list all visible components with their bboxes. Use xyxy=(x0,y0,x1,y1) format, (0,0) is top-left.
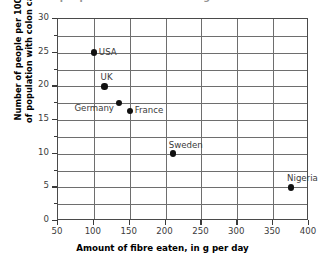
x-axis-tick xyxy=(236,220,237,225)
x-axis-tick-label: 150 xyxy=(109,226,149,236)
x-axis-tick-label: 250 xyxy=(180,226,220,236)
x-axis-tick xyxy=(272,220,273,225)
y-axis-tick-major xyxy=(52,52,57,53)
x-axis-tick xyxy=(308,220,309,225)
y-axis-title-line-1: Number of people per 100 000 xyxy=(13,0,25,120)
y-axis-tick-label: 10 xyxy=(27,147,49,157)
x-axis-tick xyxy=(57,220,58,225)
y-axis-tick-major xyxy=(52,119,57,120)
data-point-label: France xyxy=(135,105,164,115)
chart-title: Number of people with colon cancer again… xyxy=(0,0,325,3)
y-axis-tick-label: 5 xyxy=(27,180,49,190)
data-point-label: UK xyxy=(101,72,113,82)
y-axis-tick-label: 0 xyxy=(27,214,49,224)
point-labels-layer: USAUKGermanyFranceSwedenNigeria xyxy=(58,19,307,219)
x-axis-tick xyxy=(93,220,94,225)
data-point-label: Nigeria xyxy=(287,173,318,183)
y-axis-tick-label: 30 xyxy=(27,12,49,22)
y-axis-tick-major xyxy=(52,153,57,154)
scatter-chart-figure: Number of people with colon cancer again… xyxy=(0,0,325,268)
y-axis-tick-label: 25 xyxy=(27,46,49,56)
y-axis-tick-major xyxy=(52,18,57,19)
x-axis-tick-label: 100 xyxy=(73,226,113,236)
y-axis-tick-major xyxy=(52,186,57,187)
y-axis-tick-label: 20 xyxy=(27,79,49,89)
plot-area: USAUKGermanyFranceSwedenNigeria xyxy=(57,18,308,220)
x-axis-title: Amount of fibre eaten, in g per day xyxy=(0,243,325,253)
y-axis-tick-minor xyxy=(54,102,58,103)
data-point-label: USA xyxy=(99,47,117,57)
y-axis-tick-minor xyxy=(54,136,58,137)
x-axis-tick-label: 200 xyxy=(145,226,185,236)
x-axis-tick-label: 350 xyxy=(252,226,292,236)
data-point-label: Sweden xyxy=(169,140,203,150)
y-axis-tick-minor xyxy=(54,69,58,70)
y-axis-tick-minor xyxy=(54,170,58,171)
y-axis-title: Number of people per 100 000 of populati… xyxy=(11,0,37,147)
y-axis-tick-minor xyxy=(54,35,58,36)
x-axis-tick xyxy=(165,220,166,225)
data-point-label: Germany xyxy=(74,103,114,113)
x-axis-tick-label: 400 xyxy=(288,226,325,236)
y-axis-tick-major xyxy=(52,85,57,86)
y-axis-tick-minor xyxy=(54,203,58,204)
x-axis-tick-label: 300 xyxy=(216,226,256,236)
x-axis-tick-label: 50 xyxy=(37,226,77,236)
x-axis-tick xyxy=(200,220,201,225)
x-axis-tick xyxy=(129,220,130,225)
y-axis-tick-label: 15 xyxy=(27,113,49,123)
